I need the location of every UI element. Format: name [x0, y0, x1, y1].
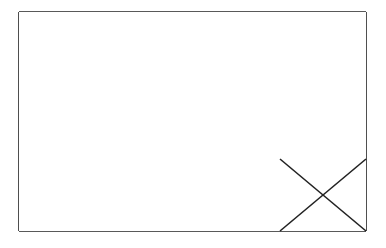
grid-cell-r0-c1: [106, 12, 193, 86]
grid-cell-r1-c1: [106, 86, 193, 159]
grid-cell-r0-c2: [193, 12, 280, 86]
grid-cells: [19, 12, 366, 231]
grid-cell-r2-c0: [19, 159, 106, 231]
grid-cell-r1-c0: [19, 86, 106, 159]
grid-diagram: [0, 0, 386, 248]
grid-cell-r2-c2: [193, 159, 280, 231]
grid-cell-r1-c2: [193, 86, 280, 159]
grid-cell-r0-c0: [19, 12, 106, 86]
grid-cell-r1-c3: [280, 86, 366, 159]
grid-cell-r0-c3: [280, 12, 366, 86]
grid-svg: [0, 0, 386, 248]
grid-cell-r2-c1: [106, 159, 193, 231]
